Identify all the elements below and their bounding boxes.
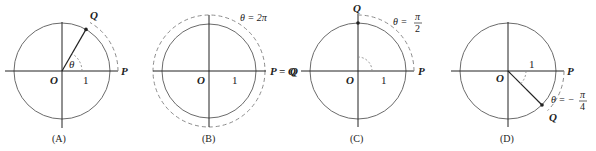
unit-label: 1	[381, 74, 387, 86]
point-q-label: Q	[90, 9, 98, 21]
origin-label: O	[197, 74, 205, 86]
point-q-label: Q	[353, 2, 361, 14]
point-p-label: P	[121, 65, 128, 77]
point-q	[540, 103, 544, 107]
origin-label: O	[50, 74, 58, 86]
caption: (A)	[52, 133, 66, 145]
caption: (C)	[350, 133, 363, 145]
panel-c: O 1 P Q Q θ = π 2 (C)	[290, 2, 425, 145]
angle-label: θ = −	[551, 94, 574, 105]
angle-numerator: π	[580, 89, 586, 100]
unit-circle-figure: θ O 1 P Q (A) O 1 P = Q θ = 2π (B) O 1 P…	[0, 0, 596, 151]
point-q	[84, 28, 88, 32]
unit-label: 1	[529, 58, 535, 70]
angle-label: θ = 2π	[240, 12, 268, 23]
origin-label: O	[496, 72, 504, 84]
angle-arc	[521, 71, 526, 84]
point-p-label: P	[418, 65, 425, 77]
angle-label: θ	[69, 58, 75, 70]
caption: (D)	[500, 133, 514, 145]
unit-label: 1	[232, 74, 238, 86]
panel-a: θ O 1 P Q (A)	[5, 9, 128, 145]
point-q-label: Q	[549, 111, 557, 123]
origin-label: O	[346, 74, 354, 86]
panel-b: O 1 P = Q θ = 2π (B)	[153, 12, 296, 145]
left-q-label: Q	[290, 65, 298, 77]
unit-label: 1	[83, 74, 89, 86]
angle-numerator: π	[415, 11, 421, 22]
angle-arc	[358, 57, 372, 71]
point-p-label: P	[567, 65, 574, 77]
angle-denominator: 4	[580, 101, 585, 112]
caption: (B)	[202, 133, 215, 145]
angle-denominator: 2	[415, 23, 420, 34]
angle-label: θ =	[393, 16, 407, 27]
point-q	[356, 21, 360, 25]
panel-d: O 1 P Q θ = − π 4 (D)	[451, 22, 587, 145]
